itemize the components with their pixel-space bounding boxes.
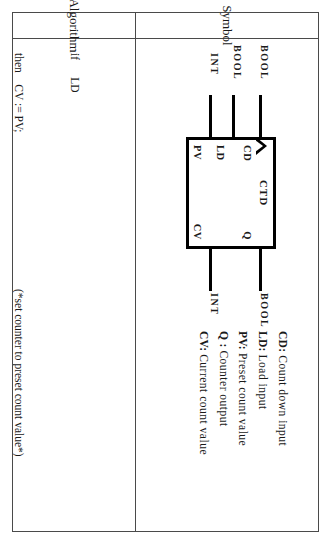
algorithm-row-body: if LD then CV := PV; elseif CD (↑) AND (… <box>13 39 135 531</box>
legend-desc-pv: Preset count value <box>237 353 249 446</box>
legend-desc-cv: Current count value <box>198 354 210 455</box>
legend-item-q: Q : Counter output <box>213 331 233 455</box>
wire-output-cv <box>210 249 213 291</box>
legend-desc-q: Counter output <box>218 350 230 426</box>
legend-item-cv: CV: Current count value <box>193 331 213 455</box>
algorithm-comment-block: (*set counter to preset count value*) (*… <box>13 289 121 457</box>
pin-label-ld: LD <box>215 145 226 161</box>
algorithm-code-block: if LD then CV := PV; elseif CD (↑) AND (… <box>13 53 121 187</box>
algorithm-area: if LD then CV := PV; elseif CD (↑) AND (… <box>13 39 135 531</box>
type-label-input-ld: BOOL <box>232 45 243 80</box>
table-row-symbol: Symbol <box>135 13 318 531</box>
legend-key-cd: CD: <box>277 331 289 352</box>
pin-label-cv: CV <box>192 224 203 240</box>
type-label-input-pv: INT <box>209 53 220 76</box>
document-sheet: Symbol <box>0 0 333 544</box>
legend-item-ld: LD: Load input <box>252 331 272 455</box>
rotated-page-wrapper: Symbol <box>0 0 333 544</box>
comment-line: (*set counter to preset count value*) <box>13 289 28 457</box>
pin-legend: CD: Count down input LD: Load input PV: … <box>193 331 292 455</box>
legend-item-cd: CD: Count down input <box>272 331 292 455</box>
function-block-name: CTD <box>258 140 270 246</box>
function-block-diagram: CTD CD LD PV Q CV BOOL <box>154 77 294 307</box>
wire-input-cd <box>260 95 263 137</box>
type-label-output-cv: INT <box>209 293 220 316</box>
legend-desc-ld: Load input <box>257 355 269 410</box>
symbol-area: CTD CD LD PV Q CV BOOL <box>136 39 318 531</box>
code-line: then CV := PV; <box>13 53 28 187</box>
symbol-row-body: CTD CD LD PV Q CV BOOL <box>136 39 318 531</box>
type-label-output-q: BOOL <box>259 293 270 328</box>
table-row-algorithm: Algorithm if LD then CV := PV; elseif CD… <box>13 13 135 531</box>
code-line: if LD <box>65 53 84 187</box>
pin-label-cd: CD <box>242 145 253 161</box>
pin-label-q: Q <box>242 231 253 240</box>
legend-desc-cd: Count down input <box>277 355 289 446</box>
legend-key-pv: PV: <box>237 331 249 350</box>
row-header-algorithm: Algorithm <box>13 13 135 39</box>
wire-input-ld <box>233 95 236 137</box>
legend-key-cv: CV: <box>198 331 210 351</box>
rising-edge-triangle-inner-icon <box>255 140 263 152</box>
legend-key-ld: LD: <box>257 331 269 352</box>
wire-output-q <box>260 249 263 291</box>
function-block-spec-table: Symbol <box>12 12 319 532</box>
pin-label-pv: PV <box>192 145 203 160</box>
legend-key-q: Q : <box>218 331 230 348</box>
legend-item-pv: PV: Preset count value <box>233 331 253 455</box>
type-label-input-cd: BOOL <box>259 45 270 80</box>
row-header-symbol: Symbol <box>136 13 318 39</box>
wire-input-pv <box>210 95 213 137</box>
